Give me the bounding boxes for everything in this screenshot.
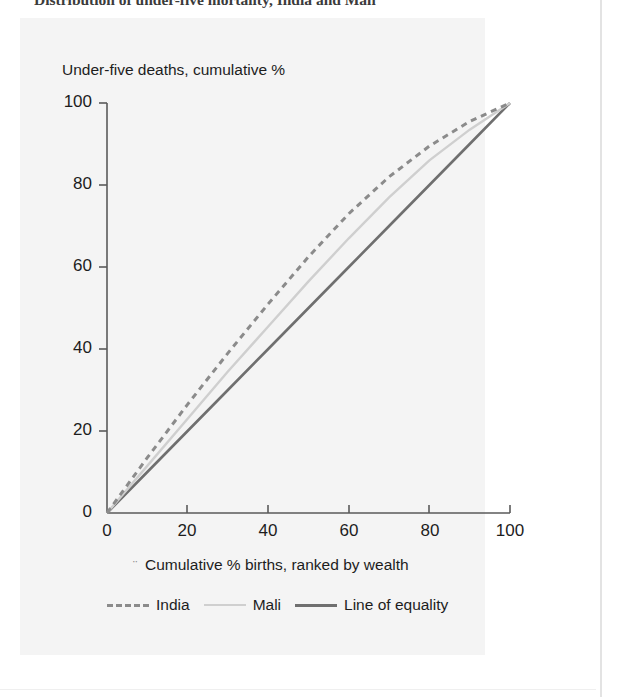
legend-item-mali: Mali — [204, 596, 281, 614]
legend-label-india: India — [156, 596, 190, 614]
x-axis-title-mark: ¨ — [133, 558, 137, 573]
dark-line-icon — [295, 604, 337, 607]
series-line-of-equality — [107, 103, 510, 513]
legend-item-india: India — [107, 596, 190, 614]
legend-item-line-of-equality: Line of equality — [295, 596, 448, 614]
y-tick-marks — [99, 103, 107, 431]
page-bottom-rule — [0, 689, 596, 690]
legend-label-mali: Mali — [253, 596, 281, 614]
page-right-rule — [600, 0, 602, 697]
chart-plot-area: Under-five deaths, cumulative % 100 80 6… — [0, 0, 620, 697]
x-tick-marks — [187, 505, 510, 513]
x-axis-title: Cumulative % births, ranked by wealth — [145, 556, 409, 574]
dashed-line-icon — [107, 604, 149, 607]
legend-label-line-of-equality: Line of equality — [344, 596, 448, 614]
chart-legend: India Mali Line of equality — [107, 592, 448, 618]
light-line-icon — [204, 604, 246, 606]
